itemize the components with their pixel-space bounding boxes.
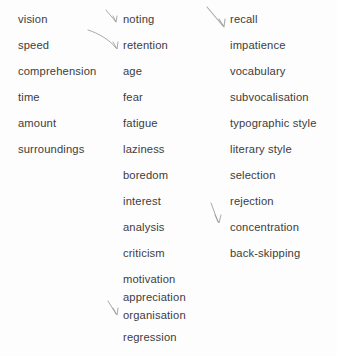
word-item: appreciation (123, 291, 186, 304)
word-item: literary style (230, 143, 292, 156)
arrow-mark-concentration (211, 203, 221, 223)
word-item: comprehension (18, 65, 96, 78)
word-item: fatigue (123, 117, 158, 130)
word-item: vocabulary (230, 65, 286, 78)
word-item: regression (123, 331, 177, 344)
word-item: amount (18, 117, 56, 130)
word-item: motivation (123, 273, 176, 286)
word-item: recall (230, 13, 258, 26)
arrow-mark-retention (88, 30, 118, 49)
word-item: organisation (123, 309, 186, 322)
word-item: speed (18, 39, 49, 52)
word-item: retention (123, 39, 168, 52)
arrow-mark-noting (106, 10, 117, 22)
word-item: rejection (230, 195, 274, 208)
word-item: noting (123, 13, 154, 26)
word-item: time (18, 91, 40, 104)
word-item: surroundings (18, 143, 84, 156)
word-item: vision (18, 13, 48, 26)
word-item: selection (230, 169, 276, 182)
arrow-mark-recall (207, 7, 225, 27)
word-item: subvocalisation (230, 91, 309, 104)
word-item: back-skipping (230, 247, 300, 260)
arrow-mark-organisation (108, 301, 118, 315)
word-item: fear (123, 91, 143, 104)
word-item: concentration (230, 221, 299, 234)
word-item: interest (123, 195, 161, 208)
word-item: criticism (123, 247, 165, 260)
word-item: boredom (123, 169, 168, 182)
word-item: age (123, 65, 142, 78)
page-root: visionspeedcomprehensiontimeamountsurrou… (0, 0, 337, 356)
word-item: impatience (230, 39, 286, 52)
word-item: typographic style (230, 117, 317, 130)
word-item: laziness (123, 143, 165, 156)
word-item: analysis (123, 221, 165, 234)
